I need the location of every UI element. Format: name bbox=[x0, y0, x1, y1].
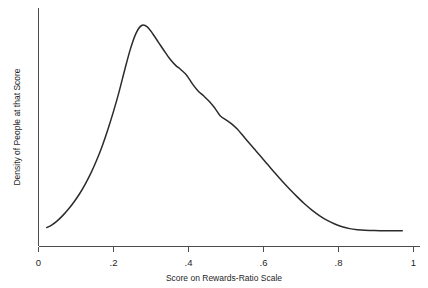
x-tick-label-0: 0 bbox=[36, 257, 41, 268]
x-axis-ticks bbox=[39, 247, 414, 253]
x-tick-label-3: .6 bbox=[260, 257, 268, 268]
density-chart-figure: 0 .2 .4 .6 .8 1 Score on Rewards-Ratio S… bbox=[0, 0, 428, 288]
density-curve bbox=[47, 25, 403, 231]
x-axis-tick-labels: 0 .2 .4 .6 .8 1 bbox=[36, 257, 416, 268]
x-tick-label-4: .8 bbox=[335, 257, 343, 268]
x-tick-label-5: 1 bbox=[411, 257, 416, 268]
y-axis-title: Density of People at that Score bbox=[12, 68, 22, 185]
x-tick-label-2: .4 bbox=[185, 257, 193, 268]
x-axis-title: Score on Rewards-Ratio Scale bbox=[166, 273, 282, 283]
x-tick-label-1: .2 bbox=[110, 257, 118, 268]
chart-canvas: 0 .2 .4 .6 .8 1 Score on Rewards-Ratio S… bbox=[0, 0, 428, 288]
